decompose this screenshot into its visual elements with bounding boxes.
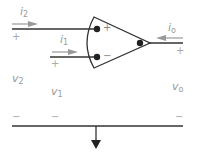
label-v1: v1	[51, 86, 63, 99]
sign-noninverting: +	[103, 23, 111, 33]
sign-vo-minus: −	[175, 112, 183, 122]
sign-v2-minus: −	[12, 112, 20, 122]
label-vo: vo	[172, 81, 183, 94]
sign-v1-minus: −	[51, 112, 59, 122]
label-i2: i2	[20, 6, 28, 19]
arrowhead-i2-icon	[28, 21, 38, 27]
arrowhead-io-icon	[156, 35, 166, 41]
terminal-noninverting	[94, 26, 100, 32]
label-v2: v2	[12, 73, 24, 86]
sign-vo-plus: +	[176, 46, 184, 56]
arrowhead-i1-icon	[68, 49, 78, 55]
sign-v2-plus: +	[12, 32, 20, 42]
label-i1: i1	[60, 34, 68, 47]
ground-arrow-icon	[91, 140, 101, 149]
sign-inverting: −	[103, 51, 111, 61]
sign-v1-plus: +	[51, 59, 59, 69]
terminal-inverting	[94, 54, 100, 60]
terminal-output	[137, 40, 143, 46]
label-io: io	[168, 22, 176, 35]
